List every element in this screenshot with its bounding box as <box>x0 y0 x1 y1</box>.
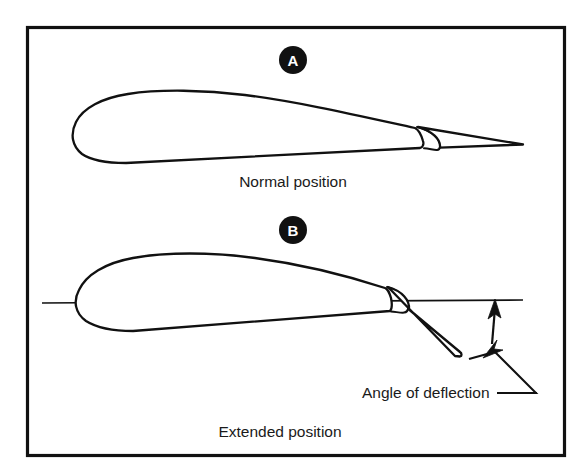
badge-label-b: B <box>288 222 299 239</box>
flap-position-diagram: A Normal position B <box>0 0 587 473</box>
airfoil-body-a <box>73 91 424 163</box>
figure-root: A Normal position B <box>0 0 587 473</box>
angle-of-deflection-label: Angle of deflection <box>362 384 490 401</box>
airfoil-body-b <box>76 254 392 332</box>
panel-b-caption: Extended position <box>218 423 341 440</box>
flap-a <box>418 127 523 148</box>
panel-a-badge: A <box>279 46 307 74</box>
callout-leader-line <box>492 349 536 393</box>
panel-a: A Normal position <box>73 46 523 190</box>
panel-b: B Extended position <box>42 216 523 440</box>
flap-b-deflected <box>388 287 462 357</box>
badge-label-a: A <box>288 52 299 69</box>
panel-a-caption: Normal position <box>239 173 347 190</box>
panel-b-badge: B <box>279 216 307 244</box>
